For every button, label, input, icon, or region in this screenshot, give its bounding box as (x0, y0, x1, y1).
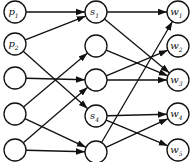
edge-s1-to-w3 (104, 19, 169, 73)
node-circle (85, 69, 107, 91)
node-w4: w4 (167, 103, 189, 125)
node-p1: p1 (4, 1, 26, 23)
node-s1: s1 (85, 1, 107, 23)
node-w5: w5 (167, 139, 189, 161)
node-circle (4, 67, 26, 89)
node-p2: p2 (4, 33, 26, 55)
edge-s4-to-w4 (107, 114, 167, 115)
node-m5 (85, 141, 107, 162)
node-circle (4, 103, 26, 125)
node-circle (4, 139, 26, 161)
node-l5 (4, 139, 26, 161)
node-circle (85, 35, 107, 57)
bipartite-flow-diagram: p1p2s1s4w1w2w3w4w5 (0, 0, 191, 162)
node-s4: s4 (85, 105, 107, 127)
edge-l5-to-m5 (26, 150, 85, 151)
edge-p2-to-s1 (25, 16, 86, 40)
node-w3: w3 (167, 69, 189, 91)
edge-m5-to-w4 (106, 119, 168, 148)
nodes: p1p2s1s4w1w2w3w4w5 (4, 1, 189, 162)
node-w1: w1 (167, 1, 189, 23)
node-m3 (85, 69, 107, 91)
node-m2 (85, 35, 107, 57)
node-circle (85, 141, 107, 162)
edge-m5-to-w1 (102, 21, 173, 142)
node-l3 (4, 67, 26, 89)
node-l4 (4, 103, 26, 125)
edge-l5-to-m3 (23, 87, 87, 143)
node-w2: w2 (167, 35, 189, 57)
